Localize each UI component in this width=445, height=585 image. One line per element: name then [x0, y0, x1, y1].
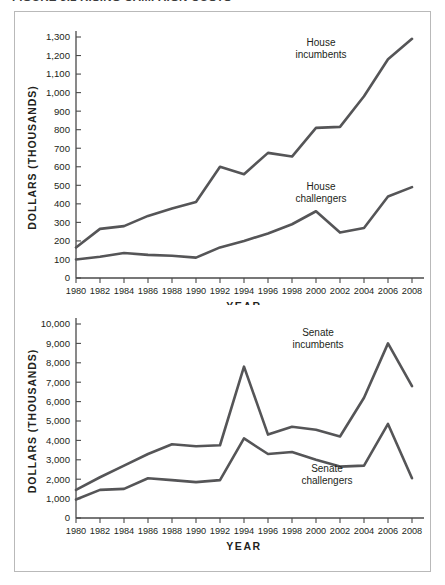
senate-spending-chart: 01,0002,0003,0004,0005,0006,0007,0008,00… [0, 300, 445, 575]
y-tick-label: 9,000 [46, 338, 70, 349]
y-tick-label: 100 [54, 254, 70, 265]
y-tick-label: 0 [65, 512, 70, 523]
x-tick-label: 2002 [330, 286, 350, 296]
series-annotation-senate-incumbents: Senateincumbents [292, 327, 343, 350]
x-tick-label: 1998 [282, 526, 302, 536]
x-tick-label: 1994 [234, 286, 254, 296]
x-tick-label: 2004 [354, 286, 374, 296]
y-axis-title: DOLLARS (THOUSANDS) [26, 349, 38, 493]
y-tick-label: 3,000 [46, 454, 70, 465]
y-tick-label: 10,000 [41, 318, 70, 329]
y-tick-label: 500 [54, 180, 70, 191]
series-label-line2: challengers [295, 193, 346, 204]
y-axis-title: DOLLARS (THOUSANDS) [26, 85, 38, 229]
chart-panel-senate: 01,0002,0003,0004,0005,0006,0007,0008,00… [0, 300, 445, 575]
y-tick-label: 600 [54, 161, 70, 172]
y-tick-label: 900 [54, 106, 70, 117]
x-tick-label: 1988 [162, 286, 182, 296]
x-tick-label: 1982 [90, 526, 110, 536]
x-tick-label: 2006 [378, 526, 398, 536]
series-annotation-house-challengers: Housechallengers [295, 181, 346, 204]
y-tick-label: 6,000 [46, 396, 70, 407]
x-tick-label: 2008 [402, 526, 422, 536]
y-tick-label: 0 [65, 272, 70, 283]
series-label-line1: Senate [311, 463, 343, 474]
y-tick-label: 200 [54, 235, 70, 246]
x-tick-label: 2006 [378, 286, 398, 296]
x-tick-label: 1992 [210, 286, 230, 296]
y-tick-label: 1,000 [46, 493, 70, 504]
series-label-line1: House [307, 181, 336, 192]
x-tick-label: 1982 [90, 286, 110, 296]
y-tick-label: 700 [54, 143, 70, 154]
x-tick-label: 1998 [282, 286, 302, 296]
x-tick-label: 2000 [306, 526, 326, 536]
x-tick-label: 1990 [186, 286, 206, 296]
x-tick-label: 1996 [258, 526, 278, 536]
x-tick-label: 2000 [306, 286, 326, 296]
series-label-line1: Senate [302, 327, 334, 338]
y-tick-label: 2,000 [46, 474, 70, 485]
chart-panel-house: 01002003004005006007008009001,0001,1001,… [0, 0, 445, 305]
y-tick-label: 4,000 [46, 435, 70, 446]
x-tick-label: 1990 [186, 526, 206, 536]
series-label-line2: incumbents [295, 49, 346, 60]
x-tick-label: 1992 [210, 526, 230, 536]
x-tick-label: 2008 [402, 286, 422, 296]
house-spending-chart: 01002003004005006007008009001,0001,1001,… [0, 0, 445, 305]
y-tick-label: 400 [54, 198, 70, 209]
y-tick-label: 8,000 [46, 357, 70, 368]
series-label-line2: incumbents [292, 339, 343, 350]
data-line-house-challengers [76, 187, 412, 259]
x-tick-label: 2004 [354, 526, 374, 536]
x-tick-label: 1980 [66, 526, 86, 536]
x-tick-label: 1980 [66, 286, 86, 296]
series-annotation-house-incumbents: Houseincumbents [295, 37, 346, 60]
x-tick-label: 1988 [162, 526, 182, 536]
y-tick-label: 1,100 [46, 68, 70, 79]
data-line-senate-challengers [76, 424, 412, 500]
y-tick-label: 800 [54, 124, 70, 135]
y-tick-label: 1,000 [46, 87, 70, 98]
y-tick-label: 1,200 [46, 50, 70, 61]
x-tick-label: 2002 [330, 526, 350, 536]
y-tick-label: 7,000 [46, 377, 70, 388]
x-axis-title: YEAR [226, 540, 262, 552]
x-tick-label: 1984 [114, 286, 134, 296]
x-tick-label: 1986 [138, 286, 158, 296]
x-tick-label: 1996 [258, 286, 278, 296]
series-label-line1: House [307, 37, 336, 48]
x-tick-label: 1994 [234, 526, 254, 536]
x-tick-label: 1984 [114, 526, 134, 536]
series-label-line2: challengers [301, 475, 352, 486]
y-tick-label: 300 [54, 217, 70, 228]
data-line-house-incumbents [76, 39, 412, 248]
y-tick-label: 1,300 [46, 31, 70, 42]
y-tick-label: 5,000 [46, 415, 70, 426]
x-tick-label: 1986 [138, 526, 158, 536]
data-line-senate-incumbents [76, 343, 412, 489]
